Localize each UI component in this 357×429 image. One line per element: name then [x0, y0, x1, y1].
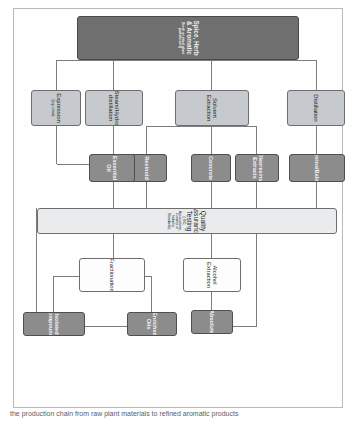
node-oleoresins-extracts[interactable]: Oleoresins/ Extracts	[235, 154, 279, 182]
node-solvent-extraction-title: Solvent Extraction	[206, 93, 219, 123]
node-isolated-compounds[interactable]: Isolated Compounds	[23, 312, 85, 336]
edge-source-steam	[113, 60, 114, 90]
node-steam-hydro-title2: distillation	[108, 95, 114, 121]
edge-qa-fractionation	[113, 234, 114, 258]
edge-resins-qa	[316, 182, 317, 208]
edge-qa-alcohol	[211, 234, 212, 258]
edge-resinoid-qa	[146, 182, 147, 208]
node-steam-hydro-title: Steam/Hydro	[114, 91, 120, 126]
edge-expression-essentialoil-h	[56, 126, 57, 164]
edge-steam-essentialoil	[113, 126, 114, 154]
flowchart-canvas: Spice, Herb & Aromatic (fresh or dried p…	[27, 0, 357, 396]
edge-source-expression-v	[57, 60, 77, 61]
node-fractionation[interactable]: Fractionation	[79, 258, 145, 292]
flowchart-rotated-group: Spice, Herb & Aromatic (fresh or dried p…	[27, 0, 357, 396]
node-resins-balms-title: Resins/Balms	[314, 154, 320, 182]
node-fractionation-title: Fractionation	[109, 258, 115, 292]
edge-concrete-qa	[211, 182, 212, 208]
node-absolute-title: Absolute	[209, 310, 215, 334]
node-alcohol-extraction-title: Alcohol Extraction	[206, 261, 219, 289]
node-absolute[interactable]: Absolute	[191, 310, 233, 334]
edge-solvent-resinoid	[146, 126, 147, 154]
figure-frame: Spice, Herb & Aromatic (fresh or dried p…	[13, 8, 343, 408]
figure-page: Spice, Herb & Aromatic (fresh or dried p…	[0, 0, 357, 429]
figure-caption: the production chain from raw plant mate…	[10, 410, 350, 419]
node-essential-oil-title: Essential Oil	[106, 156, 118, 181]
edge-frac-enriched-h	[151, 276, 152, 312]
edge-solvent-concrete	[211, 126, 212, 154]
node-essential-oil[interactable]: Essential Oil	[89, 154, 135, 182]
node-expression-subtitle: (e.g. citrus)	[50, 100, 54, 117]
node-isolated-compounds-title: Isolated Compounds	[48, 312, 60, 336]
edge-solvent-oleoresins	[256, 126, 257, 154]
edge-source-expression	[56, 60, 57, 90]
node-distillation[interactable]: Distillation	[287, 90, 345, 126]
node-expression[interactable]: Expression (e.g. citrus)	[31, 90, 81, 126]
node-solvent-extraction[interactable]: Solvent Extraction	[175, 90, 249, 126]
node-resins-balms[interactable]: Resins/Balms	[289, 154, 345, 182]
edge-alcohol-absolute	[211, 292, 212, 310]
node-expression-title: Expression	[55, 93, 61, 123]
node-source[interactable]: Spice, Herb & Aromatic (fresh or dried p…	[77, 16, 299, 60]
edge-essentialoil-qa	[113, 182, 114, 208]
node-quality-assurance-testing[interactable]: Quality Assurance Testing ( ISO, Associa…	[37, 208, 337, 234]
node-alcohol-extraction[interactable]: Alcohol Extraction	[183, 258, 241, 292]
node-source-subtitle: (fresh or dried plant parts/resins)	[177, 19, 184, 57]
node-enriched-oils-title: Enriched Oils	[146, 312, 158, 336]
node-enriched-oils[interactable]: Enriched Oils	[127, 312, 177, 336]
node-qa-title: Quality Assurance Testing	[186, 208, 207, 234]
node-steam-hydro-distillation[interactable]: Steam/Hydro distillation	[85, 90, 143, 126]
edge-distillation-resins	[316, 126, 317, 154]
node-oleoresins-title2: Extracts	[251, 157, 257, 178]
node-concrete-title: Concrete	[208, 156, 214, 180]
edge-frac-isolated-h	[53, 276, 54, 312]
node-qa-subtitle: ( ISO, Associations, Country or Industry…	[167, 211, 185, 231]
node-distillation-title: Distillation	[313, 94, 319, 121]
edge-source-solvent	[211, 60, 212, 90]
edge-oleoresins-qa	[256, 182, 257, 208]
edge-source-distillation	[316, 60, 317, 90]
node-source-title: Spice, Herb & Aromatic	[185, 19, 199, 57]
node-concrete[interactable]: Concrete	[191, 154, 231, 182]
node-resinoid-title: Resinoid	[144, 156, 150, 180]
edge-solvent-trunk	[147, 126, 257, 127]
